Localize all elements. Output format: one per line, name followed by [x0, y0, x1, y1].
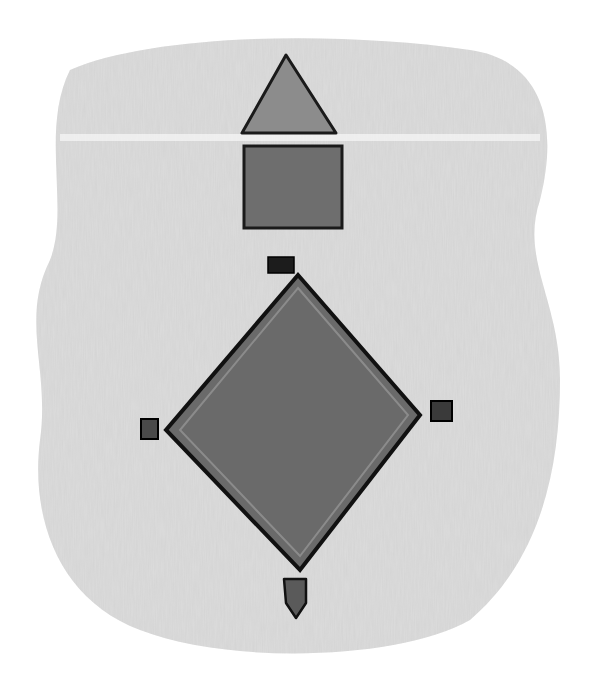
- first-base: [431, 401, 452, 421]
- second-base: [268, 257, 294, 273]
- pencil-drawing: [0, 0, 597, 677]
- third-base: [141, 419, 158, 439]
- house-box: [244, 146, 342, 228]
